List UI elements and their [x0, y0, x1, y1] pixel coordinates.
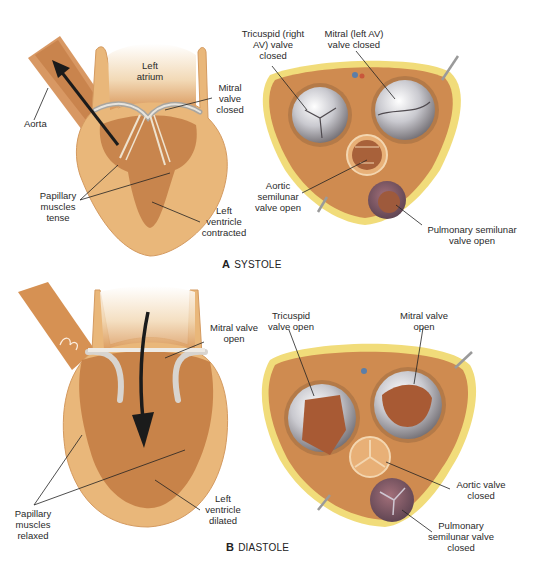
diastole-cross-section [262, 344, 476, 527]
label-aortic-semilunar-open: Aortic semilunar valve open [250, 180, 306, 213]
label-left-atrium: Left atrium [130, 60, 170, 82]
label-papillary-muscles-tense: Papillary muscles tense [34, 190, 82, 223]
caption-systole: ASYSTOLE [222, 258, 282, 270]
label-mitral-open: Mitral valve open [396, 310, 452, 332]
label-pulmonary-semilunar-open: Pulmonary semilunar valve open [420, 224, 524, 246]
label-tricuspid-closed: Tricuspid (right AV) valve closed [240, 28, 306, 61]
label-left-ventricle-contracted: Left ventricle contracted [198, 205, 250, 238]
label-mitral-left-av-closed: Mitral (left AV) valve closed [322, 28, 386, 50]
caption-diastole: BDIASTOLE [226, 541, 289, 553]
label-mitral-valve-open: Mitral valve open [204, 322, 264, 344]
heart-valves-figure: Aorta Left atrium Mitral valve closed Pa… [0, 0, 542, 579]
label-aortic-valve-closed: Aortic valve closed [448, 479, 514, 501]
caption-letter-a: A [222, 258, 230, 270]
label-tricuspid-open: Tricuspid valve open [262, 310, 320, 332]
label-left-ventricle-dilated: Left ventricle dilated [200, 493, 246, 526]
label-aorta: Aorta [24, 118, 47, 129]
label-pulmonary-semilunar-closed: Pulmonary semilunar valve closed [426, 520, 496, 553]
caption-title-diastole: DIASTOLE [238, 542, 289, 553]
label-mitral-valve-closed: Mitral valve closed [208, 82, 252, 115]
diastole-longitudinal-heart [18, 282, 228, 527]
label-papillary-muscles-relaxed: Papillary muscles relaxed [8, 508, 58, 541]
caption-title-systole: SYSTOLE [234, 259, 281, 270]
caption-letter-b: B [226, 541, 234, 553]
